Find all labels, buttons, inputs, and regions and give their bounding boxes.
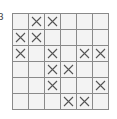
grid-cell-r3-c2 <box>45 62 61 78</box>
grid-cell-r0-c5 <box>93 14 109 30</box>
grid-cell-r5-c5 <box>93 94 109 110</box>
grid-cell-r2-c2 <box>45 46 61 62</box>
grid-cell-r1-c1 <box>29 30 45 46</box>
grid-cell-r0-c2 <box>45 14 61 30</box>
x-icon <box>47 64 58 75</box>
x-icon <box>79 96 90 107</box>
x-icon <box>63 64 74 75</box>
x-icon <box>95 80 106 91</box>
grid-cell-r5-c3 <box>61 94 77 110</box>
grid-cell-r3-c1 <box>29 62 45 78</box>
figure-label: 3 <box>0 12 4 22</box>
grid-cell-r4-c3 <box>61 78 77 94</box>
grid-cell-r3-c0 <box>13 62 29 78</box>
grid-cell-r0-c4 <box>77 14 93 30</box>
grid-cell-r5-c2 <box>45 94 61 110</box>
grid-cell-r0-c3 <box>61 14 77 30</box>
grid-cell-r4-c4 <box>77 78 93 94</box>
grid-cell-r0-c0 <box>13 14 29 30</box>
grid-cell-r4-c5 <box>93 78 109 94</box>
grid-cell-r1-c0 <box>13 30 29 46</box>
grid-cell-r3-c3 <box>61 62 77 78</box>
grid-cell-r2-c1 <box>29 46 45 62</box>
x-icon <box>47 48 58 59</box>
x-icon <box>31 16 42 27</box>
grid-cell-r2-c0 <box>13 46 29 62</box>
grid-cell-r4-c0 <box>13 78 29 94</box>
grid-cell-r3-c5 <box>93 62 109 78</box>
grid-cell-r5-c1 <box>29 94 45 110</box>
x-icon <box>47 80 58 91</box>
x-icon <box>63 96 74 107</box>
grid-cell-r0-c1 <box>29 14 45 30</box>
x-grid <box>12 13 109 110</box>
x-icon <box>47 16 58 27</box>
grid-cell-r2-c3 <box>61 46 77 62</box>
grid-cell-r5-c4 <box>77 94 93 110</box>
grid-cell-r4-c2 <box>45 78 61 94</box>
x-icon <box>95 48 106 59</box>
grid-cell-r2-c4 <box>77 46 93 62</box>
x-icon <box>79 48 90 59</box>
grid-cell-r5-c0 <box>13 94 29 110</box>
grid-cell-r1-c2 <box>45 30 61 46</box>
x-icon <box>31 32 42 43</box>
grid-cell-r2-c5 <box>93 46 109 62</box>
grid-cell-r3-c4 <box>77 62 93 78</box>
grid-cell-r1-c3 <box>61 30 77 46</box>
x-icon <box>15 32 26 43</box>
x-icon <box>15 48 26 59</box>
grid-cell-r1-c5 <box>93 30 109 46</box>
grid-cell-r1-c4 <box>77 30 93 46</box>
grid-cell-r4-c1 <box>29 78 45 94</box>
